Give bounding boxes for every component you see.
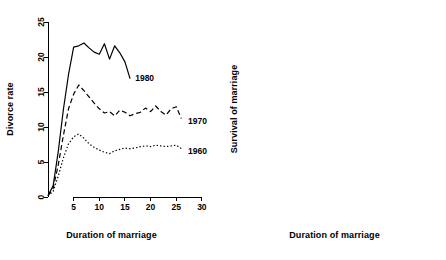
series-line-1960	[48, 134, 181, 196]
x-tick-label: 25	[171, 202, 181, 212]
series-label-1970: 1970	[188, 116, 207, 126]
figure-container: 051015202551015202530198019701960 Divorc…	[0, 0, 446, 260]
x-tick-label: 15	[120, 202, 130, 212]
divorce-rate-x-axis-title: Duration of marriage	[0, 230, 223, 240]
series-label-1980: 1980	[135, 73, 154, 83]
y-tick-label: 10	[36, 122, 46, 132]
y-tick-label: 20	[36, 52, 46, 62]
y-tick-label: 5	[36, 159, 46, 164]
series-label-1960: 1960	[188, 146, 207, 156]
survival-plot: 0.50.60.70.80.91.0510152025	[223, 0, 446, 260]
series-line-1980	[48, 43, 130, 196]
x-tick-label: 30	[197, 202, 207, 212]
divorce-rate-y-axis-title: Divorce rate	[5, 59, 15, 159]
y-tick-label: 0	[36, 194, 46, 199]
x-tick-label: 10	[95, 202, 105, 212]
y-tick-label: 15	[36, 87, 46, 97]
y-tick-label: 25	[36, 17, 46, 27]
x-tick-label: 5	[71, 202, 76, 212]
divorce-rate-panel: 051015202551015202530198019701960 Divorc…	[0, 0, 223, 260]
survival-y-axis-title: Survival of marriage	[229, 44, 239, 174]
series-line-1970	[48, 85, 181, 196]
divorce-rate-plot: 051015202551015202530198019701960	[0, 0, 223, 260]
x-tick-label: 20	[146, 202, 156, 212]
survival-panel: 0.50.60.70.80.91.0510152025 Survival of …	[223, 0, 446, 260]
survival-x-axis-title: Duration of marriage	[223, 230, 446, 240]
